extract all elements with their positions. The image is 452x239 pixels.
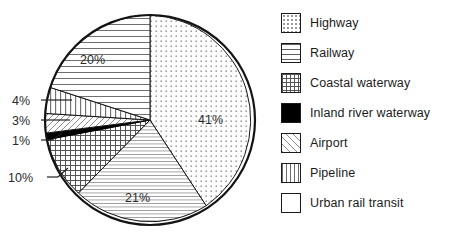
legend-label-highway: Highway xyxy=(310,16,359,30)
slice-value-inland-river-waterway: 1% xyxy=(12,134,30,148)
legend-item-railway[interactable]: Railway xyxy=(281,38,452,68)
legend-swatch-pipeline xyxy=(281,163,301,183)
legend-item-coastal-waterway[interactable]: Coastal waterway xyxy=(281,68,452,98)
legend-swatch-coastal-waterway xyxy=(281,73,301,93)
legend-item-highway[interactable]: Highway xyxy=(281,8,452,38)
legend-item-urban-rail-transit[interactable]: Urban rail transit xyxy=(281,188,452,218)
pie-chart-plot-area: 41% 21% 10% 1% 3% 4% 20% xyxy=(0,0,272,239)
legend-swatch-airport xyxy=(281,133,301,153)
legend-label-airport: Airport xyxy=(310,136,348,150)
slice-value-railway: 20% xyxy=(80,53,105,67)
legend-label-pipeline: Pipeline xyxy=(310,166,355,180)
pie-chart-svg: 41% 21% 10% 1% 3% 4% 20% xyxy=(0,0,272,239)
legend-item-inland-river-waterway[interactable]: Inland river waterway xyxy=(281,98,452,128)
slice-value-pipeline: 4% xyxy=(12,94,30,108)
legend-label-railway: Railway xyxy=(310,46,354,60)
slice-value-highway: 41% xyxy=(198,113,223,127)
legend-item-airport[interactable]: Airport xyxy=(281,128,452,158)
legend-swatch-urban-rail-transit xyxy=(281,193,301,213)
slice-value-coastal-waterway: 10% xyxy=(8,171,33,185)
legend-label-urban-rail-transit: Urban rail transit xyxy=(310,196,404,210)
slice-value-urban-rail-transit: 21% xyxy=(125,191,150,205)
legend-swatch-railway xyxy=(281,43,301,63)
pie-chart-figure: 41% 21% 10% 1% 3% 4% 20% Highway Railway… xyxy=(0,0,452,239)
legend-item-pipeline[interactable]: Pipeline xyxy=(281,158,452,188)
legend-swatch-highway xyxy=(281,13,301,33)
legend-label-coastal-waterway: Coastal waterway xyxy=(310,76,410,90)
legend-label-inland-river-waterway: Inland river waterway xyxy=(310,106,430,120)
legend-swatch-inland-river-waterway xyxy=(281,103,301,123)
chart-legend: Highway Railway Coastal waterway Inland … xyxy=(281,8,452,234)
slice-value-airport: 3% xyxy=(12,114,30,128)
